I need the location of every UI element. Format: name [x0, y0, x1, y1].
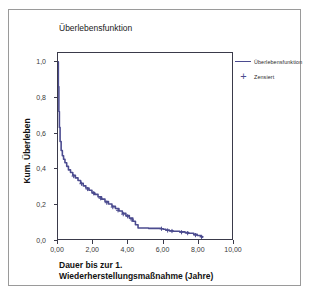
x-tick-label: 8,00 [191, 246, 205, 253]
chart-title: Überlebensfunktion [59, 23, 132, 33]
x-tick-mark [163, 240, 164, 244]
survival-curve-line [58, 62, 202, 237]
x-tick-label: 2,00 [85, 246, 99, 253]
y-axis-ticks: 1,00,80,60,40,20,0 [23, 52, 54, 240]
x-axis-ticks: 0,002,004,006,008,0010,00 [57, 240, 233, 260]
x-tick-label: 10,00 [224, 246, 242, 253]
x-axis-title: Dauer bis zur 1.Wiederherstellungsmaßnah… [59, 260, 259, 282]
y-tick-label: 0,0 [36, 237, 46, 244]
y-tick-label: 0,6 [36, 129, 46, 136]
x-tick-mark [233, 240, 234, 244]
x-tick-mark [198, 240, 199, 244]
censored-markers [72, 174, 204, 239]
legend: Überlebensfunktion + Zensiert [235, 57, 305, 87]
x-tick-mark [127, 240, 128, 244]
x-tick-label: 6,00 [156, 246, 170, 253]
y-tick-label: 0,4 [36, 165, 46, 172]
y-tick-label: 0,8 [36, 93, 46, 100]
survival-curve-svg [58, 53, 232, 239]
x-tick-mark [92, 240, 93, 244]
legend-line-icon [235, 57, 251, 67]
legend-item-survival: Überlebensfunktion [235, 57, 305, 67]
y-tick-label: 1,0 [36, 57, 46, 64]
figure-panel: Überlebensfunktion Kum. Überleben 1,00,8… [8, 9, 301, 286]
plot-area [57, 52, 233, 240]
x-tick-mark [57, 240, 58, 244]
legend-label-censored: Zensiert [254, 74, 274, 80]
legend-plus-icon: + [235, 72, 251, 82]
legend-label-survival: Überlebensfunktion [254, 59, 302, 65]
y-tick-label: 0,2 [36, 201, 46, 208]
x-tick-label: 4,00 [121, 246, 135, 253]
legend-item-censored: + Zensiert [235, 72, 305, 82]
x-tick-label: 0,00 [50, 246, 64, 253]
